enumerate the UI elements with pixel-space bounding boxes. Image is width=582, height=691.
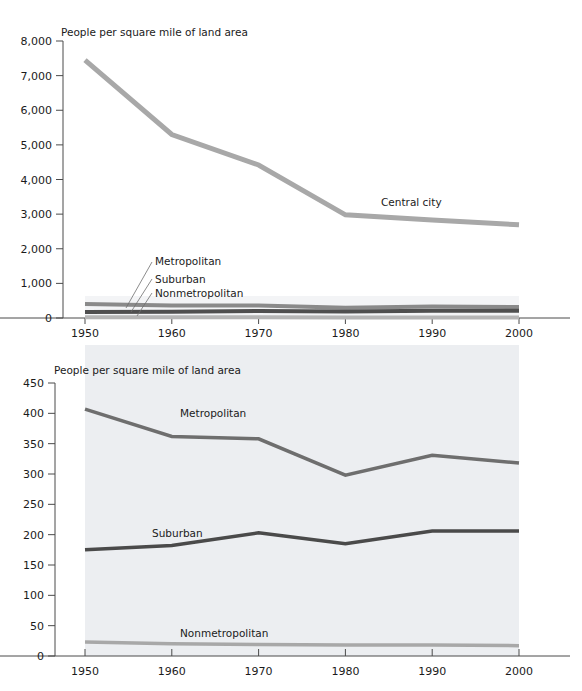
bottom-plot-shading [85,345,519,656]
top-y-tick-label: 5,000 [21,139,53,152]
bottom-y-tick-label: 100 [23,589,44,602]
figure-page: 01,0002,0003,0004,0005,0006,0007,0008,00… [0,0,582,691]
top-y-tick-label: 7,000 [21,70,53,83]
top-x-tick-label: 1980 [331,327,359,340]
bottom-series-label-suburban: Suburban [152,527,203,539]
bottom-y-tick-label: 300 [23,468,44,481]
bottom-chart-svg: 050100150200250300350400450 195019601970… [0,345,582,691]
top-x-tick-label: 1950 [71,327,99,340]
top-y-tick-label: 8,000 [21,35,53,48]
series-line-suburban [85,311,519,312]
top-chart-series-labels: Central cityMetropolitanSuburbanNonmetro… [155,196,442,299]
top-x-tick-label: 1990 [418,327,446,340]
bottom-series-label-nonmetropolitan: Nonmetropolitan [180,627,268,639]
top-chart-panel: 01,0002,0003,0004,0005,0006,0007,0008,00… [0,0,582,345]
bottom-x-tick-label: 1950 [71,665,99,678]
bottom-y-tick-label: 200 [23,529,44,542]
bottom-chart-panel: 050100150200250300350400450 195019601970… [0,345,582,691]
top-y-tick-label: 3,000 [21,208,53,221]
top-series-label-metropolitan: Metropolitan [155,255,221,267]
top-y-tick-label: 4,000 [21,174,53,187]
bottom-y-tick-label: 150 [23,559,44,572]
bottom-x-tick-label: 1960 [158,665,186,678]
top-chart-svg: 01,0002,0003,0004,0005,0006,0007,0008,00… [0,0,582,345]
top-series-label-suburban: Suburban [155,273,206,285]
bottom-series-label-metropolitan: Metropolitan [180,407,246,419]
top-axis-title: People per square mile of land area [61,26,248,38]
bottom-y-axis-ticks: 050100150200250300350400450 [23,377,55,663]
top-y-tick-label: 1,000 [21,277,53,290]
top-x-tick-label: 2000 [505,327,533,340]
bottom-y-tick-label: 0 [37,650,44,663]
bottom-x-tick-label: 1970 [245,665,273,678]
bottom-y-tick-label: 50 [30,620,44,633]
top-y-tick-label: 2,000 [21,243,53,256]
top-series-label-nonmetropolitan: Nonmetropolitan [155,287,243,299]
top-series-label-central-city: Central city [381,196,442,208]
bottom-x-tick-label: 2000 [505,665,533,678]
top-y-tick-label: 0 [45,312,52,325]
top-y-tick-label: 6,000 [21,104,53,117]
bottom-plot-background [85,345,519,656]
bottom-x-tick-label: 1990 [418,665,446,678]
bottom-axis-title: People per square mile of land area [54,364,241,376]
top-x-tick-label: 1970 [245,327,273,340]
top-chart-series-lines [85,60,519,317]
bottom-x-tick-label: 1980 [331,665,359,678]
bottom-y-tick-label: 350 [23,438,44,451]
top-x-tick-label: 1960 [158,327,186,340]
bottom-y-tick-label: 250 [23,498,44,511]
bottom-y-tick-label: 450 [23,377,44,390]
bottom-y-tick-label: 400 [23,407,44,420]
series-line-central-city [85,60,519,225]
top-x-axis-ticks: 195019601970198019902000 [71,318,533,340]
top-y-axis-ticks: 01,0002,0003,0004,0005,0006,0007,0008,00… [21,35,64,325]
